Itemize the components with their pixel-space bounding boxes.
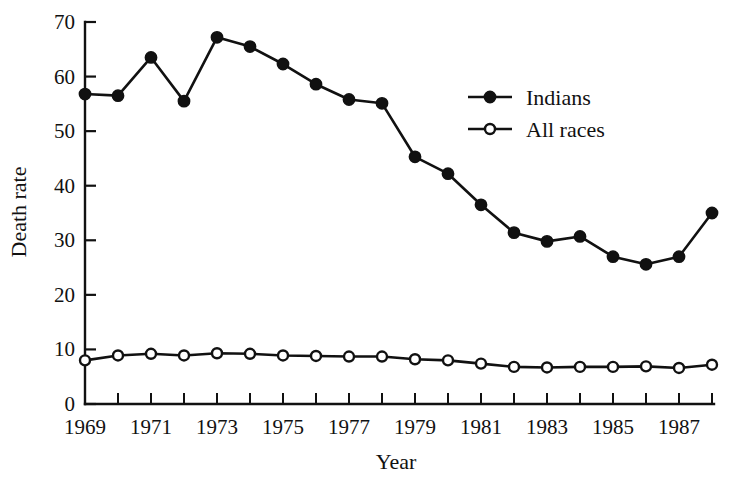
data-point-indians <box>706 207 717 218</box>
x-tick-label: 1987 <box>658 415 700 439</box>
data-point-indians <box>277 58 288 69</box>
legend-label-indians: Indians <box>526 85 591 110</box>
y-axis-ticks <box>85 22 96 404</box>
series-lines <box>85 37 712 368</box>
data-point-all-races <box>509 362 519 372</box>
data-point-indians <box>640 259 651 270</box>
data-point-all-races <box>707 360 717 370</box>
y-tick-label: 40 <box>54 174 75 198</box>
data-point-indians <box>376 98 387 109</box>
data-point-indians <box>244 41 255 52</box>
x-tick-label: 1981 <box>460 415 502 439</box>
data-point-indians <box>409 151 420 162</box>
data-point-all-races <box>80 355 90 365</box>
data-point-indians <box>343 94 354 105</box>
data-point-all-races <box>179 350 189 360</box>
x-tick-label: 1969 <box>64 415 106 439</box>
x-tick-label: 1975 <box>262 415 304 439</box>
data-point-all-races <box>410 354 420 364</box>
x-tick-label: 1983 <box>526 415 568 439</box>
y-tick-label: 70 <box>54 10 75 34</box>
data-point-all-races <box>476 359 486 369</box>
data-point-indians <box>211 32 222 43</box>
data-point-all-races <box>575 362 585 372</box>
chart-legend: IndiansAll races <box>468 85 605 142</box>
data-point-indians <box>310 79 321 90</box>
data-point-all-races <box>377 352 387 362</box>
y-tick-label: 50 <box>54 119 75 143</box>
series-markers <box>79 32 717 373</box>
y-axis-title: Death rate <box>6 167 31 258</box>
x-tick-label: 1985 <box>592 415 634 439</box>
x-axis-tick-labels: 1969197119731975197719791981198319851987 <box>64 415 700 439</box>
data-point-indians <box>178 96 189 107</box>
data-point-indians <box>574 231 585 242</box>
data-point-all-races <box>344 352 354 362</box>
data-point-all-races <box>608 362 618 372</box>
data-point-all-races <box>113 350 123 360</box>
data-point-all-races <box>311 351 321 361</box>
x-axis-ticks <box>85 393 712 404</box>
data-point-all-races <box>443 355 453 365</box>
data-point-all-races <box>641 361 651 371</box>
data-point-indians <box>112 90 123 101</box>
data-point-all-races <box>542 362 552 372</box>
x-tick-label: 1973 <box>196 415 238 439</box>
y-tick-label: 30 <box>54 228 75 252</box>
data-point-indians <box>541 236 552 247</box>
legend-marker-indians <box>484 91 495 102</box>
y-tick-label: 10 <box>54 337 75 361</box>
series-line-indians <box>85 37 712 264</box>
x-tick-label: 1979 <box>394 415 436 439</box>
data-point-all-races <box>674 363 684 373</box>
y-tick-label: 60 <box>54 65 75 89</box>
data-point-all-races <box>146 349 156 359</box>
y-axis-tick-labels: 010203040506070 <box>54 10 75 416</box>
y-tick-label: 0 <box>65 392 76 416</box>
data-point-indians <box>442 168 453 179</box>
x-tick-label: 1971 <box>130 415 172 439</box>
data-point-indians <box>508 227 519 238</box>
y-tick-label: 20 <box>54 283 75 307</box>
data-point-all-races <box>245 349 255 359</box>
data-point-indians <box>475 199 486 210</box>
x-tick-label: 1977 <box>328 415 370 439</box>
chart-figure: Death rate Year 010203040506070 19691971… <box>0 0 738 481</box>
data-point-indians <box>673 251 684 262</box>
data-point-indians <box>607 251 618 262</box>
data-point-indians <box>79 88 90 99</box>
legend-label-all-races: All races <box>526 117 605 142</box>
legend-marker-all-races <box>485 124 495 134</box>
data-point-all-races <box>278 350 288 360</box>
x-axis-title: Year <box>376 449 417 474</box>
line-chart: Death rate Year 010203040506070 19691971… <box>0 0 738 481</box>
data-point-all-races <box>212 348 222 358</box>
data-point-indians <box>145 52 156 63</box>
